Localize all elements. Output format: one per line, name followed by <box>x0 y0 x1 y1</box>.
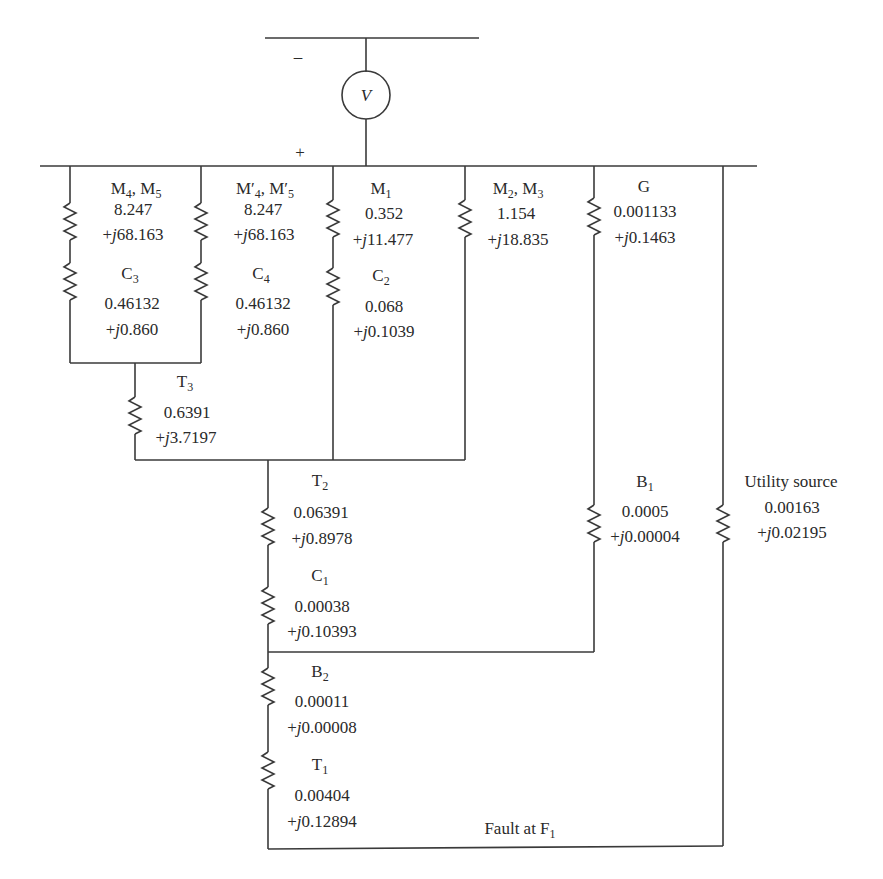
resistor-icon <box>64 203 76 240</box>
resistor-icon <box>327 268 339 305</box>
label-m4-m5: M4, M5 <box>111 179 162 201</box>
minus-label: – <box>293 47 303 66</box>
label-t3: T3 <box>177 372 193 394</box>
label-t2: T2 <box>312 471 328 493</box>
resistor-icon <box>262 668 274 705</box>
branch-m4-m5-prime-c4: M′4, M′5 8.247 +j68.163 C4 0.46132 +j0.8… <box>195 166 295 363</box>
value-c1-real: 0.00038 <box>294 597 349 616</box>
branch-t3: T3 0.6391 +j3.7197 <box>129 363 217 460</box>
value-t3-imag: +j3.7197 <box>155 428 217 447</box>
resistor-icon <box>262 587 274 624</box>
value-b1-imag: +j0.00004 <box>610 527 680 546</box>
value-c3-imag: +j0.860 <box>106 320 159 339</box>
value-b1-real: 0.0005 <box>622 502 669 521</box>
value-c4-real: 0.46132 <box>235 294 290 313</box>
value-m4-m5-imag: +j68.163 <box>102 225 163 244</box>
value-c3-real: 0.46132 <box>104 294 159 313</box>
label-m2-m3: M2, M3 <box>493 179 544 201</box>
label-b1: B1 <box>636 472 653 494</box>
value-c1-imag: +j0.10393 <box>287 622 357 641</box>
value-t2-imag: +j0.8978 <box>291 529 352 548</box>
value-utility-imag: +j0.02195 <box>757 523 827 542</box>
branch-m2-m3: M2, M3 1.154 +j18.835 <box>459 166 549 460</box>
value-g-real: 0.001133 <box>613 202 676 221</box>
value-g-imag: +j0.1463 <box>614 228 675 247</box>
value-b2-imag: +j0.00008 <box>287 718 357 737</box>
value-m4-m5-prime-imag: +j68.163 <box>233 225 294 244</box>
branch-m4-m5-c3: M4, M5 8.247 +j68.163 C3 0.46132 +j0.860 <box>64 166 164 363</box>
resistor-icon <box>262 508 274 545</box>
value-m4-m5-real: 8.247 <box>114 200 153 219</box>
value-t1-imag: +j0.12894 <box>287 812 357 831</box>
value-b2-real: 0.00011 <box>295 692 350 711</box>
fault-bus <box>268 846 723 849</box>
label-c1: C1 <box>311 566 328 588</box>
value-c2-real: 0.068 <box>365 297 403 316</box>
value-m1-imag: +j11.477 <box>353 230 414 249</box>
label-c4: C4 <box>252 264 269 286</box>
branch-g-b1: G 0.001133 +j0.1463 B1 0.0005 +j0.00004 <box>588 166 680 652</box>
resistor-icon <box>588 505 600 542</box>
voltage-source-symbol: V <box>361 86 374 105</box>
value-m4-m5-prime-real: 8.247 <box>244 200 283 219</box>
resistor-icon <box>327 200 339 237</box>
label-c2: C2 <box>372 266 389 288</box>
value-m2-m3-real: 1.154 <box>497 204 536 223</box>
label-t1: T1 <box>312 755 328 777</box>
label-g: G <box>638 177 650 196</box>
resistor-icon <box>262 752 274 789</box>
branch-t2-c1-b2-t1: T2 0.06391 +j0.8978 C1 0.00038 +j0.10393… <box>262 460 357 849</box>
resistor-icon <box>129 397 141 434</box>
label-m1: M1 <box>370 179 391 201</box>
label-b2: B2 <box>311 662 328 684</box>
label-utility-source: Utility source <box>744 472 837 491</box>
value-c4-imag: +j0.860 <box>237 320 290 339</box>
label-m4-m5-prime: M′4, M′5 <box>236 179 294 201</box>
value-m1-real: 0.352 <box>365 204 403 223</box>
value-t3-real: 0.6391 <box>164 403 211 422</box>
resistor-icon <box>64 263 76 300</box>
branch-utility-source: Utility source 0.00163 +j0.02195 <box>717 166 838 846</box>
resistor-icon <box>717 505 729 542</box>
impedance-diagram: V – + M4, M5 8.247 +j68.163 C3 0.46132 +… <box>0 0 883 879</box>
value-utility-real: 0.00163 <box>764 498 819 517</box>
value-t1-real: 0.00404 <box>294 786 350 805</box>
resistor-icon <box>195 203 207 240</box>
resistor-icon <box>459 200 471 237</box>
fault-label: Fault at F1 <box>484 819 555 841</box>
resistor-icon <box>588 198 600 235</box>
label-c3: C3 <box>121 264 138 286</box>
value-t2-real: 0.06391 <box>293 503 348 522</box>
plus-label: + <box>295 143 305 162</box>
branch-m1-c2: M1 0.352 +j11.477 C2 0.068 +j0.1039 <box>327 166 415 460</box>
resistor-icon <box>195 263 207 300</box>
value-m2-m3-imag: +j18.835 <box>487 230 548 249</box>
voltage-source: V – + <box>265 38 479 166</box>
value-c2-imag: +j0.1039 <box>353 322 414 341</box>
